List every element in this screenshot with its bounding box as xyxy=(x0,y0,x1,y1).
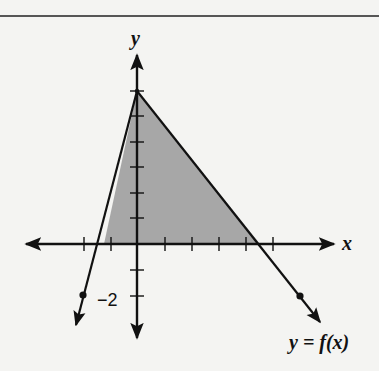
shaded-region xyxy=(104,91,260,244)
y-axis-label: y xyxy=(129,27,140,50)
vertex-dot xyxy=(135,89,139,93)
function-graph-figure: y x −2 y = f(x) xyxy=(0,0,379,371)
left-endpoint-dot xyxy=(79,291,86,298)
x-axis-label: x xyxy=(341,232,352,254)
right-endpoint-dot xyxy=(296,292,303,299)
function-label: y = f(x) xyxy=(287,331,349,354)
tick-label-neg2: −2 xyxy=(97,290,118,310)
